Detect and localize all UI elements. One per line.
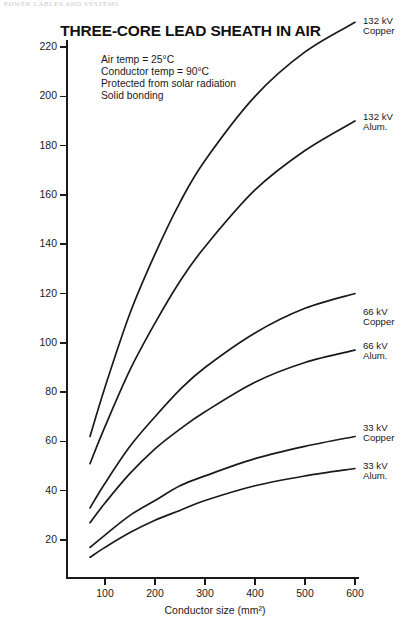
curve-label-material: Alum.	[363, 122, 393, 132]
curve-33-kv-copper	[90, 436, 355, 547]
curve-label-material: Copper	[363, 433, 394, 443]
chart-page: POWER CABLES AND SYSTEMS THREE-CORE LEAD…	[0, 0, 415, 635]
curve-label-66-kv-copper: 66 kVCopper	[363, 307, 394, 328]
curve-33-kv-alum	[90, 469, 355, 558]
curve-label-material: Alum.	[363, 471, 388, 481]
curve-label-material: Copper	[363, 317, 394, 327]
curve-label-material: Alum.	[363, 351, 388, 361]
curve-label-132-kv-alum: 132 kVAlum.	[363, 112, 393, 133]
curve-label-material: Copper	[363, 26, 394, 36]
curve-132-kv-alum	[90, 121, 355, 464]
curve-132-kv-copper	[90, 22, 355, 436]
curve-label-33-kv-alum: 33 kVAlum.	[363, 461, 388, 482]
chart-curves	[0, 0, 415, 635]
curve-66-kv-alum	[90, 350, 355, 523]
curve-label-66-kv-alum: 66 kVAlum.	[363, 341, 388, 362]
curve-label-132-kv-copper: 132 kVCopper	[363, 16, 394, 37]
curve-label-33-kv-copper: 33 kVCopper	[363, 423, 394, 444]
